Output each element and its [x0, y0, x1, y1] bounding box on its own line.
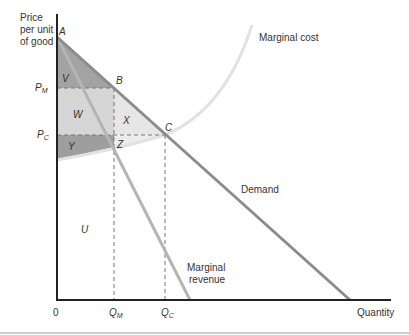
- demand-label: Demand: [241, 184, 279, 195]
- point-c-label: C: [165, 122, 173, 133]
- demand-line: [57, 37, 350, 300]
- marginal-cost-label: Marginal cost: [259, 32, 319, 43]
- pc-label: PC: [37, 129, 50, 141]
- marginal-revenue-label-line2: revenue: [189, 274, 226, 285]
- x-axis-label: Quantity: [357, 307, 394, 318]
- origin-label: 0: [53, 307, 59, 318]
- y-axis-label-line1: Price: [20, 12, 43, 23]
- point-b-label: B: [116, 75, 123, 86]
- marginal-revenue-label-line1: Marginal: [187, 262, 225, 273]
- qm-label: QM: [109, 307, 123, 319]
- point-a-label: A: [58, 26, 66, 37]
- region-x-label: X: [122, 115, 130, 126]
- y-axis-label-line3: of good: [20, 36, 53, 47]
- monopoly-diagram: Price per unit of good Quantity 0 Margin…: [0, 0, 409, 335]
- y-axis-label-line2: per unit: [20, 24, 54, 35]
- region-y: [57, 135, 114, 160]
- point-z-label: Z: [116, 139, 124, 150]
- region-w-label: W: [73, 109, 84, 120]
- pm-label: PM: [35, 82, 48, 94]
- marginal-revenue-line: [57, 37, 190, 300]
- region-u-label: U: [81, 224, 89, 235]
- qc-label: QC: [161, 307, 175, 319]
